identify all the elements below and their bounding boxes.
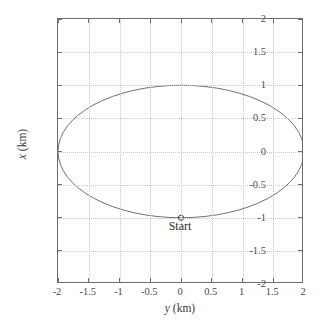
axis-tick-mark xyxy=(211,278,212,282)
axis-tick-mark xyxy=(211,19,212,23)
plot-area xyxy=(57,18,303,283)
y-tick-label: -0.5 xyxy=(249,178,266,189)
y-tick-label: 2 xyxy=(261,13,266,24)
x-tick-label: 1.5 xyxy=(266,286,279,297)
axis-tick-mark xyxy=(58,184,62,185)
axis-tick-mark xyxy=(58,52,62,53)
axis-tick-mark xyxy=(119,278,120,282)
y-axis-title-unit: (km) xyxy=(16,129,28,154)
axis-tick-mark xyxy=(298,52,302,53)
x-tick-label: 0 xyxy=(177,286,182,297)
y-tick-label: 1.5 xyxy=(253,46,266,57)
axis-tick-mark xyxy=(150,19,151,23)
y-axis-title: x (km) xyxy=(16,74,28,214)
axis-tick-mark xyxy=(58,19,62,20)
y-tick-label: 0 xyxy=(261,145,266,156)
y-axis-title-var: x xyxy=(16,154,28,159)
axis-tick-mark xyxy=(58,151,62,152)
y-tick-label: -1.5 xyxy=(249,244,266,255)
x-tick-label: -1 xyxy=(114,286,123,297)
x-tick-label: 1 xyxy=(239,286,244,297)
y-tick-label: 0.5 xyxy=(253,112,266,123)
x-axis-title: y (km) xyxy=(57,302,303,314)
axis-tick-mark xyxy=(181,278,182,282)
x-tick-label: -0.5 xyxy=(141,286,158,297)
start-annotation-label: Start xyxy=(169,219,192,234)
x-axis-title-unit: (km) xyxy=(170,302,195,314)
x-tick-label: -1.5 xyxy=(79,286,96,297)
axis-tick-mark xyxy=(58,118,62,119)
axis-tick-mark xyxy=(242,19,243,23)
axis-tick-mark xyxy=(298,118,302,119)
axis-tick-mark xyxy=(298,184,302,185)
x-tick-label: 0.5 xyxy=(204,286,217,297)
chart-figure: Start y (km) x (km) -2-1.5-1-0.500.511.5… xyxy=(0,0,327,330)
x-tick-label: -2 xyxy=(53,286,62,297)
axis-tick-mark xyxy=(298,151,302,152)
y-tick-label: -1 xyxy=(257,211,266,222)
axis-tick-mark xyxy=(298,250,302,251)
axis-tick-mark xyxy=(58,278,59,282)
y-tick-label: -2 xyxy=(257,278,266,289)
axis-tick-mark xyxy=(242,278,243,282)
x-tick-label: 2 xyxy=(300,286,305,297)
axis-tick-mark xyxy=(298,19,302,20)
axis-tick-mark xyxy=(150,278,151,282)
axis-tick-mark xyxy=(273,19,274,23)
axis-tick-mark xyxy=(298,85,302,86)
axis-tick-mark xyxy=(298,217,302,218)
axis-tick-mark xyxy=(58,250,62,251)
axis-tick-mark xyxy=(273,278,274,282)
axis-tick-mark xyxy=(181,19,182,23)
axis-tick-mark xyxy=(58,19,59,23)
axis-tick-mark xyxy=(58,217,62,218)
axis-tick-mark xyxy=(58,85,62,86)
y-tick-label: 1 xyxy=(261,79,266,90)
axis-tick-mark xyxy=(88,19,89,23)
axis-tick-mark xyxy=(88,278,89,282)
axis-tick-mark xyxy=(119,19,120,23)
